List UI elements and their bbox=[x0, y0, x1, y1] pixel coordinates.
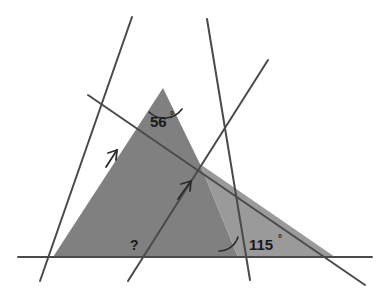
angle-label-56-degree-icon: ° bbox=[170, 110, 174, 121]
geometry-diagram-canvas: 56 ° 115 ° ? bbox=[0, 0, 391, 296]
angle-label-56-value: 56 bbox=[150, 113, 167, 130]
angle-label-unknown-value: ? bbox=[130, 237, 139, 253]
geometry-svg: 56 ° 115 ° ? bbox=[0, 0, 391, 296]
angle-label-115-value: 115 bbox=[249, 236, 273, 253]
shaded-regions bbox=[53, 88, 335, 257]
angle-label-115-degree-icon: ° bbox=[278, 233, 282, 244]
angle-label-unknown: ? bbox=[130, 237, 139, 253]
